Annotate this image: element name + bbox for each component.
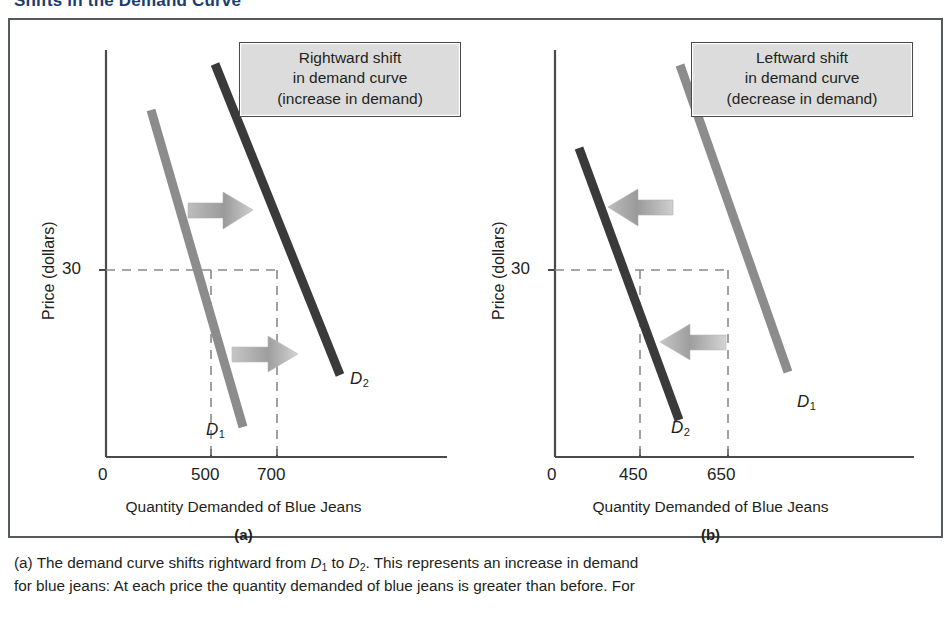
x-axis-title-a: Quantity Demanded of Blue Jeans xyxy=(10,498,477,516)
shift-arrow-lower-b xyxy=(660,324,726,360)
callout-line-1-b: Leftward shift xyxy=(704,48,900,68)
x-tick-label-500-a: 500 xyxy=(191,465,219,485)
y-axis-title-b: Price (dollars) xyxy=(490,221,508,320)
y-tick-label-30-b: 30 xyxy=(511,259,530,279)
caption-line-2: for blue jeans: At each price the quanti… xyxy=(14,577,635,594)
page-title: Shifts in the Demand Curve xyxy=(14,0,241,9)
demand-curve-d2-b xyxy=(579,148,679,420)
curve-label-d2-b: D2 xyxy=(671,418,689,438)
callout-line-2-b: in demand curve xyxy=(704,68,900,88)
callout-box-b: Leftward shift in demand curve (decrease… xyxy=(691,42,913,117)
figure-frame: Price (dollars) 30 0 500 700 Rightward s… xyxy=(8,18,943,538)
panel-letter-b: (b) xyxy=(477,526,944,543)
panel-b: Price (dollars) 30 0 450 650 Leftward sh… xyxy=(477,20,944,540)
callout-line-3-a: (increase in demand) xyxy=(252,89,448,109)
panel-letter-a: (a) xyxy=(10,526,477,543)
x-tick-label-0-a: 0 xyxy=(98,465,107,485)
curve-label-d1-b: D1 xyxy=(797,392,815,412)
x-axis-title-b: Quantity Demanded of Blue Jeans xyxy=(477,498,944,516)
figure-caption: (a) The demand curve shifts rightward fr… xyxy=(14,552,939,598)
curve-label-d1-a: D1 xyxy=(206,420,224,440)
x-tick-label-450-b: 450 xyxy=(619,465,647,485)
shift-arrow-upper-a xyxy=(188,192,253,229)
curve-label-d2-a: D2 xyxy=(350,369,368,389)
figure-page: Shifts in the Demand Curve xyxy=(0,0,951,619)
callout-line-1-a: Rightward shift xyxy=(252,48,448,68)
x-tick-label-0-b: 0 xyxy=(547,465,556,485)
callout-box-a: Rightward shift in demand curve (increas… xyxy=(239,42,461,117)
shift-arrow-lower-a xyxy=(232,336,298,372)
y-axis-title-a: Price (dollars) xyxy=(40,221,58,320)
caption-line-1: (a) The demand curve shifts rightward fr… xyxy=(14,554,638,571)
x-tick-label-700-a: 700 xyxy=(257,465,285,485)
shift-arrow-upper-b xyxy=(608,189,673,226)
panel-a: Price (dollars) 30 0 500 700 Rightward s… xyxy=(10,20,477,540)
callout-line-2-a: in demand curve xyxy=(252,68,448,88)
callout-line-3-b: (decrease in demand) xyxy=(704,89,900,109)
demand-curve-d1-a xyxy=(151,110,243,427)
x-tick-label-650-b: 650 xyxy=(707,465,735,485)
y-tick-label-30-a: 30 xyxy=(62,259,81,279)
